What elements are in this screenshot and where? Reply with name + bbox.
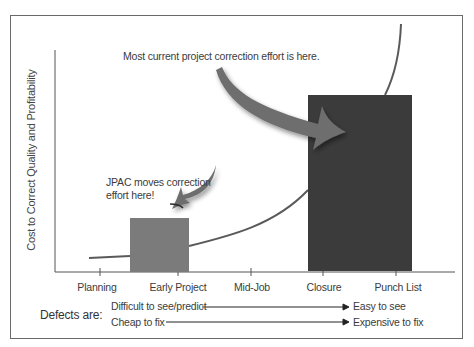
tick-label-closure: Closure xyxy=(307,281,342,293)
defects-cheap: Cheap to fix xyxy=(111,316,165,328)
tick-label-mid-job: Mid-Job xyxy=(234,281,270,293)
defects-label: Defects are: xyxy=(40,308,102,322)
annotation-jpac-line1: JPAC moves correction xyxy=(106,176,211,188)
annotation-jpac-line2: effort here! xyxy=(106,189,154,201)
tick-label-early-project: Early Project xyxy=(150,281,207,293)
tick-label-punch-list: Punch List xyxy=(374,281,421,293)
defects-expensive: Expensive to fix xyxy=(353,316,423,328)
defects-difficult: Difficult to see/predict xyxy=(111,300,206,312)
annotation-current-effort: Most current project correction effort i… xyxy=(123,50,319,62)
y-axis-label: Cost to Correct Quality and Profitabilit… xyxy=(25,69,37,250)
tick-label-planning: Planning xyxy=(77,281,116,293)
bar-jpac-early xyxy=(130,218,189,272)
defects-easy: Easy to see xyxy=(353,300,406,312)
